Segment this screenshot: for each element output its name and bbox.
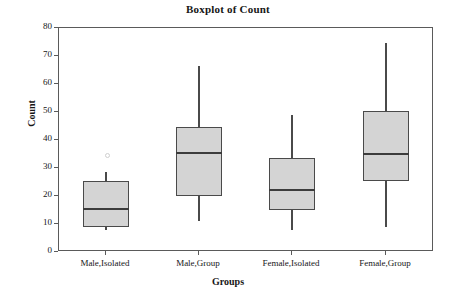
- y-tick-mark: [54, 195, 58, 196]
- y-tick-label: 50: [43, 104, 52, 117]
- median-line: [269, 189, 315, 191]
- box-iqr[interactable]: [176, 127, 222, 196]
- x-tick-mark: [385, 251, 386, 255]
- y-axis-tick: 0: [0, 251, 58, 252]
- upper-whisker: [291, 115, 293, 158]
- lower-whisker: [385, 181, 387, 227]
- median-line: [83, 208, 129, 210]
- lower-whisker: [198, 196, 200, 221]
- y-tick-label: 20: [43, 188, 52, 201]
- median-line: [363, 153, 409, 155]
- y-tick-mark: [54, 139, 58, 140]
- y-axis-tick: 60: [0, 83, 58, 84]
- y-axis-tick: 30: [0, 167, 58, 168]
- lower-whisker: [105, 227, 107, 229]
- y-axis-title: Count: [26, 69, 37, 159]
- box-iqr[interactable]: [363, 111, 409, 181]
- y-tick-mark: [54, 83, 58, 84]
- y-tick-label: 30: [43, 160, 52, 173]
- y-tick-label: 0: [48, 244, 53, 257]
- outlier-point: [105, 153, 110, 158]
- upper-whisker: [105, 172, 107, 180]
- x-tick-label: Female,Group: [325, 258, 445, 268]
- y-axis-tick: 20: [0, 195, 58, 196]
- y-tick-mark: [54, 251, 58, 252]
- y-axis-tick: 80: [0, 27, 58, 28]
- y-tick-mark: [54, 167, 58, 168]
- y-axis-tick: 50: [0, 111, 58, 112]
- box-iqr[interactable]: [269, 158, 315, 210]
- upper-whisker: [198, 66, 200, 128]
- upper-whisker: [385, 43, 387, 110]
- y-axis-tick: 10: [0, 223, 58, 224]
- x-tick-mark: [291, 251, 292, 255]
- y-tick-label: 70: [43, 48, 52, 61]
- y-axis-tick: 40: [0, 139, 58, 140]
- y-tick-mark: [54, 223, 58, 224]
- y-tick-label: 80: [43, 20, 52, 33]
- y-tick-mark: [54, 55, 58, 56]
- box-iqr[interactable]: [83, 181, 129, 228]
- x-axis-title: Groups: [0, 276, 456, 287]
- plot-area: [58, 27, 433, 251]
- y-tick-label: 60: [43, 76, 52, 89]
- y-axis-tick: 70: [0, 55, 58, 56]
- chart-title: Boxplot of Count: [0, 3, 456, 15]
- y-tick-mark: [54, 27, 58, 28]
- y-tick-mark: [54, 111, 58, 112]
- lower-whisker: [291, 210, 293, 230]
- x-tick-mark: [105, 251, 106, 255]
- boxplot-chart: Boxplot of Count Count Groups 0102030405…: [0, 0, 456, 298]
- x-tick-mark: [198, 251, 199, 255]
- median-line: [176, 152, 222, 154]
- y-tick-label: 40: [43, 132, 52, 145]
- y-tick-label: 10: [43, 216, 52, 229]
